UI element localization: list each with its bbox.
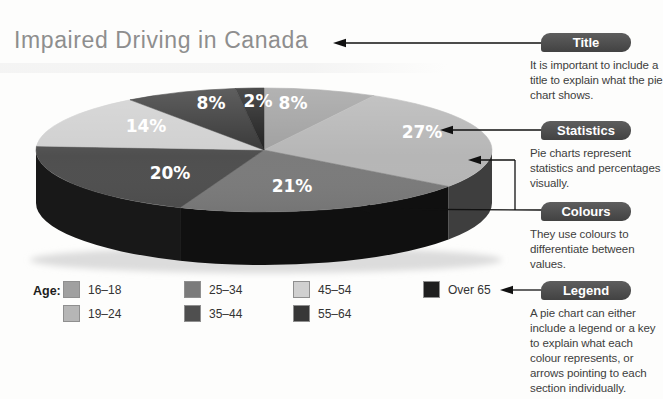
legend-swatch-19-24 [63, 305, 80, 322]
legend-swatch-over-65 [423, 281, 440, 298]
legend-swatch-25-34 [184, 281, 201, 298]
legend-label: 25–34 [209, 283, 242, 297]
legend-label: Over 65 [448, 283, 491, 297]
legend-label: 19–24 [88, 307, 121, 321]
legend-item: 55–64 [293, 305, 351, 322]
legend-label: 45–54 [318, 283, 351, 297]
pie-slice-percent-label: 14% [126, 116, 167, 136]
legend-item: 45–54 [293, 281, 351, 298]
legend-item: 35–44 [184, 305, 242, 322]
legend-label: 55–64 [318, 307, 351, 321]
callout-badge-colours: Colours [541, 202, 631, 221]
legend-swatch-35-44 [184, 305, 201, 322]
pie-slice-percent-label: 20% [150, 163, 191, 183]
legend-item: 19–24 [63, 305, 121, 322]
pie-slice-percent-label: 8% [197, 93, 226, 113]
callout-badge-legend: Legend [541, 281, 631, 300]
callout-note-colours: They use colours to differentiate betwee… [530, 227, 663, 272]
legend-label: 16–18 [88, 283, 121, 297]
legend-title: Age: [33, 284, 61, 298]
callout-note-statistics: Pie charts represent statistics and perc… [530, 146, 663, 191]
arrowhead-left-icon [500, 286, 513, 294]
legend-item: Over 65 [423, 281, 491, 298]
callout-badge-title: Title [541, 33, 631, 52]
infographic-page: Impaired Driving in Canada 8%27%21%20%14… [0, 0, 663, 399]
pie-slice-percent-label: 21% [272, 176, 313, 196]
legend-swatch-16-18 [63, 281, 80, 298]
pie-slice-percent-label: 2% [244, 91, 273, 111]
legend-item: 16–18 [63, 281, 121, 298]
pie-slice-percent-label: 8% [279, 93, 308, 113]
callout-note-legend: A pie chart can either include a legend … [530, 306, 663, 396]
arrowhead-left-icon [333, 39, 346, 47]
legend-swatch-55-64 [293, 305, 310, 322]
legend-item: 25–34 [184, 281, 242, 298]
legend-swatch-45-54 [293, 281, 310, 298]
callout-badge-statistics: Statistics [541, 121, 631, 140]
pie-slice-percent-label: 27% [402, 122, 443, 142]
callout-note-title: It is important to include a title to ex… [530, 58, 663, 103]
legend-label: 35–44 [209, 307, 242, 321]
